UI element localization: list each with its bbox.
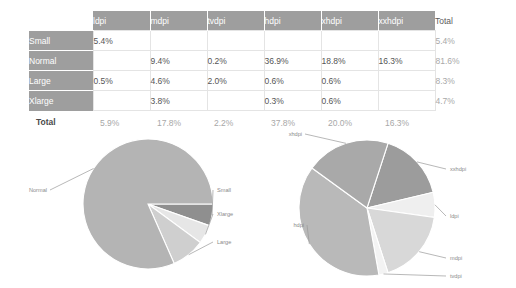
column-header-tvdpi[interactable]: tvdpi xyxy=(207,11,264,31)
cell-small-mdpi xyxy=(150,31,207,51)
column-header-mdpi[interactable]: mdpi xyxy=(150,11,207,31)
cell-xlarge-tvdpi xyxy=(207,91,264,111)
screen-density-pie-svg: xhdpi xxhdpi ldpi mdpi tvdpi hdpi xyxy=(272,126,516,288)
cell-large-xxhdpi xyxy=(378,71,435,91)
table-row: Large 0.5% 4.6% 2.0% 0.6% 0.6% 8.3% xyxy=(29,71,487,91)
distribution-table: ldpi mdpi tvdpi hdpi xhdpi xxhdpi Total … xyxy=(29,11,487,132)
screen-size-pie-svg: Normal Small Xlarge Large xyxy=(10,126,280,288)
pie-label-xlarge: Xlarge xyxy=(217,211,233,217)
screen-density-pie-chart: xhdpi xxhdpi ldpi mdpi tvdpi hdpi xyxy=(272,126,516,288)
pie-label-xhdpi: xhdpi xyxy=(289,131,302,137)
row-label-xlarge: Xlarge xyxy=(29,91,93,111)
table-corner-cell xyxy=(29,11,93,31)
cell-xlarge-hdpi: 0.3% xyxy=(264,91,321,111)
pie-label-mdpi: mdpi xyxy=(450,255,462,261)
cell-normal-xhdpi: 18.8% xyxy=(321,51,378,71)
cell-large-hdpi: 0.6% xyxy=(264,71,321,91)
cell-large-tvdpi: 2.0% xyxy=(207,71,264,91)
cell-small-tvdpi xyxy=(207,31,264,51)
screen-size-pie-chart: Normal Small Xlarge Large xyxy=(10,126,280,288)
cell-small-ldpi: 5.4% xyxy=(93,31,150,51)
column-header-ldpi[interactable]: ldpi xyxy=(93,11,150,31)
leader-xhdpi xyxy=(305,134,346,143)
cell-normal-total: 81.6% xyxy=(435,51,487,71)
pie-label-tvdpi: tvdpi xyxy=(450,273,462,279)
pie-label-xxhdpi: xxhdpi xyxy=(450,166,466,172)
column-header-xxhdpi[interactable]: xxhdpi xyxy=(378,11,435,31)
row-label-large: Large xyxy=(29,71,93,91)
cell-xlarge-xhdpi: 0.6% xyxy=(321,91,378,111)
cell-xlarge-mdpi: 3.8% xyxy=(150,91,207,111)
cell-small-xhdpi xyxy=(321,31,378,51)
column-header-hdpi[interactable]: hdpi xyxy=(264,11,321,31)
cell-large-mdpi: 4.6% xyxy=(150,71,207,91)
pie-label-normal: Normal xyxy=(29,187,47,193)
cell-normal-ldpi xyxy=(93,51,150,71)
cell-xlarge-ldpi xyxy=(93,91,150,111)
pie-label-hdpi: hdpi xyxy=(293,222,304,228)
cell-xlarge-total: 4.7% xyxy=(435,91,487,111)
row-label-small: Small xyxy=(29,31,93,51)
table-header-row: ldpi mdpi tvdpi hdpi xhdpi xxhdpi Total xyxy=(29,11,487,31)
charts-region: Normal Small Xlarge Large xhdpi xxhdpi l… xyxy=(0,126,516,288)
column-header-xhdpi[interactable]: xhdpi xyxy=(321,11,378,31)
cell-large-xhdpi: 0.6% xyxy=(321,71,378,91)
leader-ldpi xyxy=(435,205,446,216)
cell-xlarge-xxhdpi xyxy=(378,91,435,111)
cell-normal-xxhdpi: 16.3% xyxy=(378,51,435,71)
cell-small-xxhdpi xyxy=(378,31,435,51)
cell-small-total: 5.4% xyxy=(435,31,487,51)
leader-tvdpi xyxy=(383,274,446,276)
distribution-table-container: ldpi mdpi tvdpi hdpi xhdpi xxhdpi Total … xyxy=(29,11,487,132)
table-row: Xlarge 3.8% 0.3% 0.6% 4.7% xyxy=(29,91,487,111)
cell-large-ldpi: 0.5% xyxy=(93,71,150,91)
screen-size-slices[interactable] xyxy=(83,139,213,269)
screen-density-slices[interactable] xyxy=(299,140,435,276)
pie-label-ldpi: ldpi xyxy=(450,213,459,219)
table-row: Small 5.4% 5.4% xyxy=(29,31,487,51)
table-row: Normal 9.4% 0.2% 36.9% 18.8% 16.3% 81.6% xyxy=(29,51,487,71)
row-label-normal: Normal xyxy=(29,51,93,71)
pie-label-small: Small xyxy=(217,187,231,193)
cell-normal-mdpi: 9.4% xyxy=(150,51,207,71)
leader-mdpi xyxy=(419,252,446,258)
cell-small-hdpi xyxy=(264,31,321,51)
cell-normal-hdpi: 36.9% xyxy=(264,51,321,71)
cell-normal-tvdpi: 0.2% xyxy=(207,51,264,71)
pie-label-large: Large xyxy=(217,239,231,245)
column-header-total: Total xyxy=(435,11,487,31)
cell-large-total: 8.3% xyxy=(435,71,487,91)
